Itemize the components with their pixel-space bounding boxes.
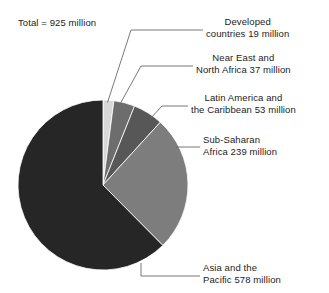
leader-line-asia-and-the-pacific — [141, 263, 200, 276]
callout-label-line2: Pacific 578 million — [203, 274, 281, 286]
callout-label-line2: Africa 239 million — [203, 146, 277, 158]
callout-label-line1: Latin America and — [205, 92, 283, 103]
leader-line-near-east-north-africa — [120, 66, 194, 105]
pie-chart-figure: Total = 925 million Developed countries … — [0, 0, 329, 293]
callout-label-line1: Near East and — [212, 52, 274, 63]
callout-label-line1: Developed — [225, 16, 271, 27]
callout-label-line2: the Caribbean 53 million — [191, 104, 296, 116]
callout-developed-countries: Developed countries 19 million — [206, 16, 289, 39]
callout-latin-america-caribbean: Latin America and the Caribbean 53 milli… — [191, 92, 296, 115]
pie-slices — [18, 100, 188, 270]
total-label: Total = 925 million — [18, 17, 96, 28]
callout-label-line2: North Africa 37 million — [196, 64, 291, 76]
callout-label-line2: countries 19 million — [206, 28, 289, 40]
callout-asia-and-the-pacific: Asia and the Pacific 578 million — [203, 262, 281, 285]
callout-sub-saharan-africa: Sub-Saharan Africa 239 million — [203, 134, 277, 157]
callout-label-line1: Asia and the — [203, 262, 257, 273]
callout-near-east-north-africa: Near East and North Africa 37 million — [196, 52, 291, 75]
callout-label-line1: Sub-Saharan — [203, 134, 260, 145]
pie-chart-canvas — [0, 0, 329, 293]
leader-line-latin-america-caribbean — [150, 106, 188, 119]
